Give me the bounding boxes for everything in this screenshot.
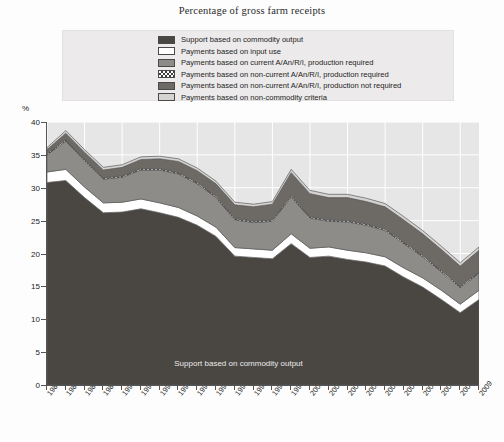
in-plot-annotation: Support based on commodity output [174,359,303,368]
plot-area [46,122,479,386]
area-series-layer [47,131,479,385]
stacked-area-plot [47,122,479,385]
chart-root: Percentage of gross farm receipts Suppor… [0,0,504,442]
x-axis-tick: 2009 [477,379,494,398]
